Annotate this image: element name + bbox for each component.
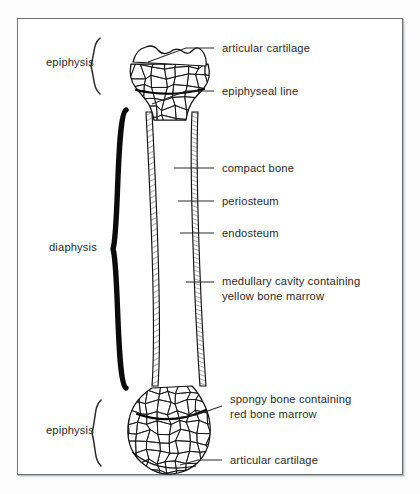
epiphysis-outline-bottom [128, 386, 210, 474]
label-articular-cartilage-bottom: articular cartilage [230, 454, 318, 466]
label-compact-bone: compact bone [222, 162, 294, 174]
label-diaphysis: diaphysis [49, 241, 97, 253]
label-epiphyseal-line: epiphyseal line [222, 85, 298, 97]
label-articular-cartilage-top: articular cartilage [222, 42, 310, 54]
brace-diaphysis [113, 110, 126, 388]
region-braces: epiphysisdiaphysisepiphysis [46, 38, 126, 466]
bone-body [117, 46, 221, 485]
bone-illustration: epiphysisdiaphysisepiphysis articular ca… [0, 0, 420, 494]
distal-epiphysis [117, 379, 221, 484]
label-medullary-cavity: medullary cavity containingyellow bone m… [222, 275, 360, 302]
articular-cartilage-cap-top [133, 46, 206, 66]
label-spongy-bone: spongy bone containingred bone marrow [230, 393, 351, 420]
diaphysis-shaft [146, 112, 206, 386]
label-epiphysis-bottom: epiphysis [46, 424, 94, 436]
label-periosteum: periosteum [222, 195, 279, 207]
label-epiphysis-top: epiphysis [46, 56, 94, 68]
bone-diagram-figure: epiphysisdiaphysisepiphysis articular ca… [0, 0, 420, 494]
proximal-epiphysis [119, 46, 222, 130]
label-endosteum: endosteum [222, 227, 279, 239]
